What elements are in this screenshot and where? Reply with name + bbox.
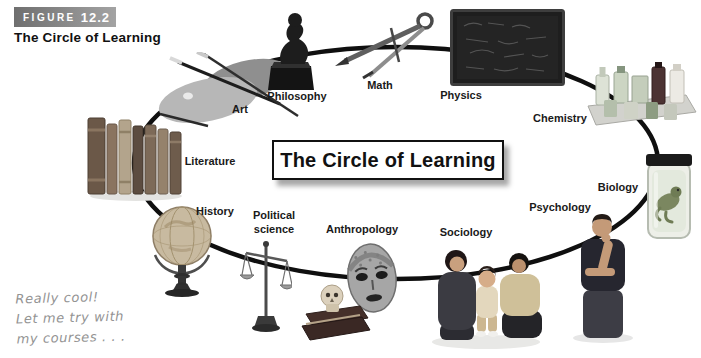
label-history: History xyxy=(196,205,234,217)
blackboard-icon xyxy=(450,9,565,86)
figure-tag: FIGURE 12.2 xyxy=(14,7,116,27)
thinking-person-icon xyxy=(565,210,643,344)
handwritten-note: Really cool! Let me try with my courses … xyxy=(15,287,126,350)
label-chemistry: Chemistry xyxy=(533,112,587,124)
label-psychology: Psychology xyxy=(529,201,591,213)
label-biology: Biology xyxy=(598,181,638,193)
label-literature: Literature xyxy=(185,155,236,167)
tribal-mask-skull-icon xyxy=(296,240,400,352)
label-physics: Physics xyxy=(440,89,482,101)
thinker-statue-icon xyxy=(262,6,320,92)
figure-tag-number: 12.2 xyxy=(81,10,110,25)
balance-scale-icon xyxy=(240,236,292,334)
label-math: Math xyxy=(367,79,393,91)
figure-caption: The Circle of Learning xyxy=(14,30,161,45)
specimen-jar-icon xyxy=(642,150,696,242)
center-title-text: The Circle of Learning xyxy=(280,149,496,172)
label-sociology: Sociology xyxy=(440,226,493,238)
drafting-compass-icon xyxy=(333,8,445,82)
center-title-box: The Circle of Learning xyxy=(272,140,504,180)
label-philosophy: Philosophy xyxy=(267,90,326,102)
figure-panel: FIGURE 12.2 The Circle of Learning xyxy=(0,0,701,358)
handwritten-line-3: my courses . . . xyxy=(16,327,126,350)
reagent-bottles-icon xyxy=(586,50,698,128)
label-art: Art xyxy=(232,103,248,115)
book-stack-icon xyxy=(86,110,186,202)
globe-icon xyxy=(143,203,221,299)
family-photo-icon xyxy=(426,236,546,352)
label-political-science: Political science xyxy=(243,209,305,237)
label-anthropology: Anthropology xyxy=(326,223,398,235)
figure-tag-label: FIGURE xyxy=(23,12,76,23)
